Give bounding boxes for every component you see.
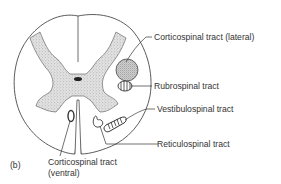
label-corticospinal-lateral: Corticospinal tract (lateral) bbox=[154, 32, 254, 42]
corticospinal-lateral-tract bbox=[116, 59, 138, 81]
central-canal bbox=[74, 77, 82, 81]
panel-label: (b) bbox=[10, 160, 21, 170]
label-corticospinal-ventral: Corticospinal tract bbox=[48, 157, 117, 167]
spinal-cord-diagram bbox=[0, 0, 281, 184]
corticospinal-ventral-tract bbox=[68, 111, 74, 122]
rubrospinal-tract bbox=[118, 81, 132, 91]
label-rubrospinal: Rubrospinal tract bbox=[154, 81, 219, 91]
label-reticulospinal: Reticulospinal tract bbox=[157, 139, 230, 149]
label-vestibulospinal: Vestibulospinal tract bbox=[157, 104, 233, 114]
label-corticospinal-ventral-sub: (ventral) bbox=[48, 168, 80, 178]
